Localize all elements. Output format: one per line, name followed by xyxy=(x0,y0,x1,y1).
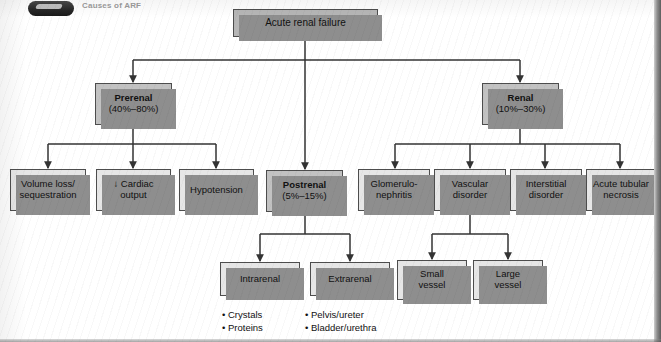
list-item-label: Bladder/urethra xyxy=(311,322,376,333)
node-extrarenal[interactable]: Extrarenal xyxy=(310,262,390,296)
node-large-vessel[interactable]: Large vessel xyxy=(473,260,543,300)
node-sublabel: nephritis xyxy=(376,190,412,201)
node-vascular-disorder[interactable]: Vascular disorder xyxy=(434,169,506,211)
node-sublabel: vessel xyxy=(495,280,522,291)
node-sublabel: (10%–30%) xyxy=(496,104,546,115)
list-item: •Bladder/urethra xyxy=(305,322,376,335)
node-sublabel: necrosis xyxy=(603,190,638,201)
list-item-label: Crystals xyxy=(228,309,262,320)
chapter-badge-icon xyxy=(28,1,74,16)
page-edge-right xyxy=(654,0,661,342)
node-glomerulonephritis[interactable]: Glomerulo- nephritis xyxy=(358,169,430,211)
list-item: •Crystals xyxy=(222,309,263,322)
node-sublabel: sequestration xyxy=(19,190,76,201)
node-sublabel: (40%–80%) xyxy=(109,104,159,115)
node-label: Intrarenal xyxy=(240,274,280,285)
node-sublabel: output xyxy=(120,190,146,201)
node-sublabel: vessel xyxy=(419,280,446,291)
list-item: •Proteins xyxy=(222,322,263,335)
list-item: •Pelvis/ureter xyxy=(305,309,376,322)
list-item-label: Proteins xyxy=(228,322,263,333)
node-hypotension[interactable]: Hypotension xyxy=(179,169,254,211)
figure-page: Causes of ARF xyxy=(0,0,661,342)
extrarenal-causes-list: •Pelvis/ureter •Bladder/urethra xyxy=(305,309,376,335)
node-small-vessel[interactable]: Small vessel xyxy=(397,260,467,300)
node-prerenal[interactable]: Prerenal (40%–80%) xyxy=(95,83,172,125)
node-renal[interactable]: Renal (10%–30%) xyxy=(482,83,559,125)
node-sublabel: (5%–15%) xyxy=(282,191,326,202)
chapter-header: Causes of ARF xyxy=(0,0,141,16)
node-volume-loss[interactable]: Volume loss/ sequestration xyxy=(10,169,86,211)
node-cardiac-output[interactable]: ↓ Cardiac output xyxy=(96,169,171,211)
node-label: Extrarenal xyxy=(328,274,371,285)
node-sublabel: disorder xyxy=(529,190,563,201)
node-interstitial-disorder[interactable]: Interstitial disorder xyxy=(510,169,582,211)
flowchart: Acute renal failure Prerenal (40%–80%) P… xyxy=(0,0,661,342)
node-postrenal[interactable]: Postrenal (5%–15%) xyxy=(266,170,343,212)
node-label: Hypotension xyxy=(190,185,243,196)
chapter-header-title: Causes of ARF xyxy=(82,1,141,10)
node-intrarenal[interactable]: Intrarenal xyxy=(220,262,300,296)
node-sublabel: disorder xyxy=(453,190,487,201)
node-acute-tubular-necrosis[interactable]: Acute tubular necrosis xyxy=(586,169,656,211)
node-label: Acute renal failure xyxy=(265,17,346,28)
intrarenal-causes-list: •Crystals •Proteins xyxy=(222,309,263,335)
node-acute-renal-failure[interactable]: Acute renal failure xyxy=(233,9,378,37)
list-item-label: Pelvis/ureter xyxy=(311,309,364,320)
